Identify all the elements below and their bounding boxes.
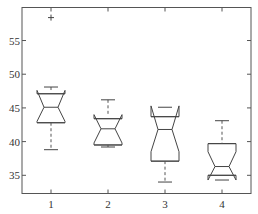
x-tick-label: 1 xyxy=(48,198,54,210)
y-axis: 3540455055 xyxy=(9,35,251,182)
y-tick-label: 35 xyxy=(9,169,21,181)
box-outline xyxy=(94,115,122,145)
box-outline xyxy=(151,106,179,161)
y-tick-label: 55 xyxy=(9,35,21,47)
y-tick-label: 45 xyxy=(9,102,21,114)
boxplot-chart: 3540455055 1234 xyxy=(0,0,258,214)
box-1 xyxy=(37,15,65,150)
x-tick-label: 4 xyxy=(219,198,225,210)
box-outline xyxy=(208,144,236,180)
x-tick-label: 3 xyxy=(162,198,168,210)
axes-frame xyxy=(22,8,251,194)
box-group xyxy=(37,15,236,182)
x-tick-label: 2 xyxy=(105,198,111,210)
box-4 xyxy=(208,121,236,180)
box-outline xyxy=(37,90,65,122)
x-axis: 1234 xyxy=(48,8,225,210)
y-tick-label: 50 xyxy=(9,68,21,80)
y-tick-label: 40 xyxy=(9,136,21,148)
plot-area: 3540455055 1234 xyxy=(0,0,258,214)
box-2 xyxy=(94,100,122,147)
box-3 xyxy=(151,106,179,182)
